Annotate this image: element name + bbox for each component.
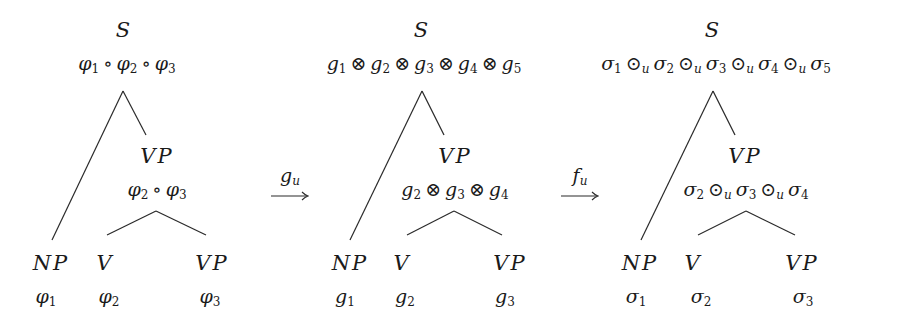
g-symbol: g xyxy=(495,285,507,307)
sigma-symbol: σ xyxy=(653,52,666,74)
tree2-leaf-v-category: V xyxy=(393,253,410,274)
g-symbol: g xyxy=(395,285,407,307)
edge-vp-v-3 xyxy=(698,211,746,235)
g-symbol: g xyxy=(327,52,339,74)
subscript: u xyxy=(724,188,732,202)
edge-s-vp-1 xyxy=(123,91,146,135)
subscript: 1 xyxy=(639,295,647,309)
arrow-label-g-u: gu xyxy=(271,166,309,187)
g-symbol: g xyxy=(445,178,457,200)
subscript: 4 xyxy=(501,188,509,202)
otimes-operator: ⊗ xyxy=(434,52,458,74)
phi-symbol: φ xyxy=(99,285,112,307)
tree3-leaf-vp-semantics: σ3 xyxy=(793,287,814,308)
edge-s-np-1 xyxy=(52,91,123,240)
edge-s-np-2 xyxy=(350,91,422,240)
arrow-label-main: f xyxy=(573,164,580,186)
g-symbol: g xyxy=(370,52,382,74)
subscript: 1 xyxy=(347,295,355,309)
tree2-leaf-np-semantics: g1 xyxy=(335,287,355,308)
odot-symbol: ⊙ xyxy=(678,52,694,74)
tree3-root-semantics: σ1⊙uσ2⊙uσ3⊙uσ4⊙uσ5 xyxy=(601,54,831,75)
otimes-operator: ⊗ xyxy=(465,178,489,200)
subscript: 1 xyxy=(339,62,347,76)
tree3-vp-category: VP xyxy=(728,146,761,167)
sigma-symbol: σ xyxy=(683,178,696,200)
tree1-vp-semantics: φ2∘φ3 xyxy=(127,180,186,201)
sigma-symbol: σ xyxy=(736,178,749,200)
phi-symbol: φ xyxy=(155,52,168,74)
subscript: 3 xyxy=(168,62,176,76)
phi-symbol: φ xyxy=(117,52,130,74)
tree2-leaf-vp-category: VP xyxy=(493,253,526,274)
phi-symbol: φ xyxy=(36,285,49,307)
subscript: 2 xyxy=(383,62,391,76)
subscript: 2 xyxy=(704,295,712,309)
tree1-root-semantics: φ1∘φ2∘φ3 xyxy=(78,54,176,75)
tree3-leaf-v-category: V xyxy=(684,253,701,274)
compose-operator: ∘ xyxy=(137,52,154,74)
subscript: 3 xyxy=(806,295,814,309)
sigma-symbol: σ xyxy=(793,285,806,307)
tree3-vp-semantics: σ2⊙uσ3⊙uσ4 xyxy=(683,180,808,201)
subscript: u xyxy=(776,188,784,202)
right-arrow-icon xyxy=(271,190,309,202)
tree1-leaf-vp-category: VP xyxy=(195,253,228,274)
tree2-vp-semantics: g2⊗g3⊗g4 xyxy=(401,180,508,201)
otimes-operator: ⊗ xyxy=(478,52,502,74)
otimes-operator: ⊗ xyxy=(390,52,414,74)
subscript: 3 xyxy=(507,295,515,309)
subscript: 2 xyxy=(112,295,120,309)
subscript: 3 xyxy=(457,188,465,202)
otimes-operator: ⊗ xyxy=(346,52,370,74)
compose-operator: ∘ xyxy=(99,52,116,74)
edge-vp-vp-3 xyxy=(746,211,795,235)
tree1-vp-category: VP xyxy=(140,146,173,167)
edge-vp-vp-2 xyxy=(454,211,502,235)
tree1-leaf-np-semantics: φ1 xyxy=(36,287,57,308)
edge-vp-v-1 xyxy=(107,211,156,235)
g-symbol: g xyxy=(401,178,413,200)
odot-symbol: ⊙ xyxy=(708,178,724,200)
edge-s-vp-2 xyxy=(422,91,444,135)
odot-u-operator: ⊙u xyxy=(704,178,736,200)
sigma-symbol: σ xyxy=(758,52,771,74)
sigma-symbol: σ xyxy=(706,52,719,74)
g-symbol: g xyxy=(489,178,501,200)
subscript: 2 xyxy=(414,188,422,202)
subscript: 1 xyxy=(49,295,57,309)
odot-u-operator: ⊙u xyxy=(726,52,758,74)
subscript: 1 xyxy=(92,62,100,76)
mapping-arrow-g-u: gu xyxy=(271,166,309,206)
subscript: 5 xyxy=(514,62,522,76)
odot-symbol: ⊙ xyxy=(626,52,642,74)
odot-symbol: ⊙ xyxy=(730,52,746,74)
sigma-symbol: σ xyxy=(601,52,614,74)
phi-symbol: φ xyxy=(127,178,140,200)
edge-s-np-3 xyxy=(641,91,713,240)
tree3-root-category: S xyxy=(705,20,721,41)
right-arrow-icon xyxy=(561,190,599,202)
subscript: u xyxy=(746,62,754,76)
sigma-symbol: σ xyxy=(626,285,639,307)
compose-operator: ∘ xyxy=(148,178,165,200)
subscript: u xyxy=(799,62,807,76)
subscript: u xyxy=(642,62,650,76)
subscript: 2 xyxy=(696,188,704,202)
odot-u-operator: ⊙u xyxy=(622,52,654,74)
tree2-root-semantics: g1⊗g2⊗g3⊗g4⊗g5 xyxy=(327,54,522,75)
tree3-leaf-vp-category: VP xyxy=(785,253,818,274)
tree3-leaf-np-category: NP xyxy=(622,253,659,274)
odot-u-operator: ⊙u xyxy=(779,52,811,74)
subscript: 3 xyxy=(179,188,187,202)
g-symbol: g xyxy=(414,52,426,74)
g-symbol: g xyxy=(502,52,514,74)
tree-mapping-diagram: S φ1∘φ2∘φ3 VP φ2∘φ3 NP φ1 V φ2 VP φ3 gu … xyxy=(0,0,898,323)
edge-s-vp-3 xyxy=(713,91,735,135)
subscript: 2 xyxy=(666,62,674,76)
arrow-label-subscript: u xyxy=(580,174,588,188)
tree1-leaf-vp-semantics: φ3 xyxy=(200,287,221,308)
g-symbol: g xyxy=(458,52,470,74)
odot-symbol: ⊙ xyxy=(783,52,799,74)
odot-u-operator: ⊙u xyxy=(756,178,788,200)
